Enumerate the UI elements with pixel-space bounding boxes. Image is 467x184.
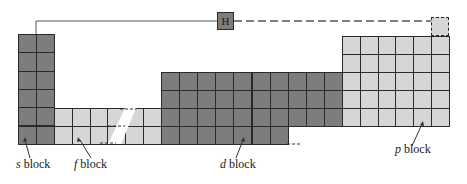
s-block-label: s block: [16, 157, 50, 172]
p-word: block: [404, 142, 431, 156]
d-block-label: d block: [220, 157, 256, 172]
p-letter: p: [395, 142, 401, 156]
d-letter: d: [220, 157, 226, 171]
f-word: block: [80, 157, 107, 171]
periodic-table-diagram: H s block f block d block p block: [0, 0, 467, 184]
f-letter: f: [74, 157, 77, 171]
hydrogen-cell: H: [217, 12, 234, 30]
f-block-label: f block: [74, 157, 107, 172]
s-letter: s: [16, 157, 21, 171]
d-word: block: [229, 157, 256, 171]
p-block-label: p block: [395, 142, 431, 157]
helium-cell: [431, 17, 449, 36]
s-word: block: [24, 157, 51, 171]
